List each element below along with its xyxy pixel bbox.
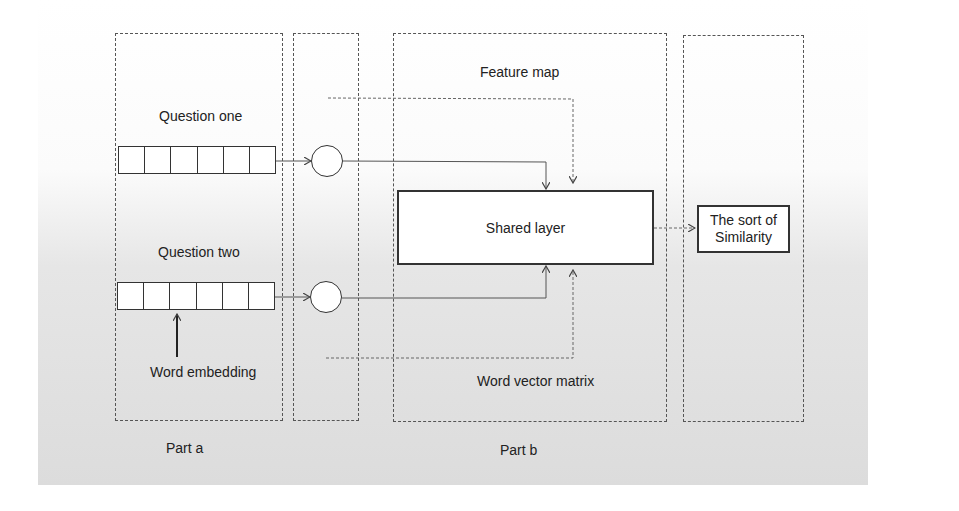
embedding-cell	[198, 147, 224, 173]
similarity-line-1: The sort of	[710, 212, 777, 229]
question-two-embedding	[117, 282, 275, 310]
embedding-cell	[197, 283, 223, 309]
part-b-label: Part b	[500, 442, 537, 458]
question-one-node	[311, 145, 343, 177]
question-two-node	[310, 281, 342, 313]
word-vector-matrix-label: Word vector matrix	[477, 373, 594, 389]
question-two-label: Question two	[158, 244, 240, 260]
shared-layer-box: Shared layer	[397, 190, 654, 265]
word-embedding-label: Word embedding	[150, 364, 256, 380]
embedding-cell	[119, 147, 145, 173]
embedding-cell	[249, 283, 274, 309]
question-one-label: Question one	[159, 108, 242, 124]
part-a-label: Part a	[166, 440, 203, 456]
embedding-cell	[170, 283, 196, 309]
embedding-cell	[171, 147, 197, 173]
similarity-output-box: The sort of Similarity	[697, 205, 790, 253]
embedding-cell	[223, 283, 249, 309]
question-one-embedding	[118, 146, 276, 174]
feature-map-label: Feature map	[480, 64, 559, 80]
embedding-cell	[118, 283, 144, 309]
shared-layer-label: Shared layer	[486, 220, 565, 236]
embedding-cell	[224, 147, 250, 173]
embedding-cell	[144, 283, 170, 309]
embedding-cell	[145, 147, 171, 173]
similarity-line-2: Similarity	[715, 229, 772, 246]
embedding-cell	[250, 147, 275, 173]
